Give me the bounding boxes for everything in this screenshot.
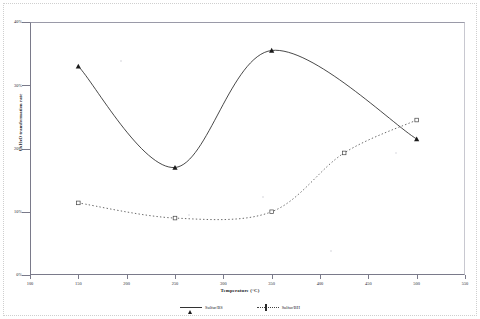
- series-canvas: [30, 22, 465, 275]
- x-tick-label: 550: [450, 281, 480, 286]
- x-tick-label: 300: [208, 281, 238, 286]
- data-point-marker: [77, 201, 81, 205]
- legend-item-1[interactable]: Sulfur/BS: [180, 304, 223, 311]
- x-tick-label: 450: [353, 281, 383, 286]
- x-tick: [368, 275, 369, 279]
- y-tick-label: 0%: [0, 272, 22, 277]
- y-tick: [22, 22, 30, 23]
- y-tick: [22, 85, 30, 86]
- chart-page: 0%10%20%30%40% 1001502002503003504004505…: [0, 0, 480, 319]
- x-tick: [223, 275, 224, 279]
- y-tick: [22, 149, 30, 150]
- data-point-marker: [415, 118, 419, 122]
- x-tick-label: 200: [112, 281, 142, 286]
- legend-line: [257, 307, 279, 308]
- x-tick-label: 500: [402, 281, 432, 286]
- x-tick: [272, 275, 273, 279]
- x-tick-label: 400: [305, 281, 335, 286]
- x-axis-title: Temperature (°C): [0, 288, 480, 293]
- y-axis-title: CxHxO transformation rate: [18, 63, 23, 183]
- data-point-marker: [76, 64, 81, 69]
- legend-label: Sulfur/BH: [282, 305, 300, 310]
- legend-swatch: [257, 304, 279, 311]
- legend-swatch: [180, 304, 202, 311]
- data-point-marker: [342, 151, 346, 155]
- chart-legend: Sulfur/BSSulfur/BH: [0, 304, 480, 311]
- legend-label: Sulfur/BS: [205, 305, 223, 310]
- data-point-marker: [270, 210, 274, 214]
- x-tick-label: 350: [257, 281, 287, 286]
- x-tick-label: 250: [160, 281, 190, 286]
- plot-area: [30, 22, 465, 275]
- x-tick: [320, 275, 321, 279]
- x-tick: [78, 275, 79, 279]
- legend-marker: [265, 305, 267, 310]
- series-1: [76, 48, 420, 170]
- data-point-marker: [173, 216, 177, 220]
- x-tick: [175, 275, 176, 279]
- series-line: [78, 50, 416, 167]
- x-tick-label: 150: [63, 281, 93, 286]
- x-tick: [465, 275, 466, 279]
- x-tick-label: 100: [15, 281, 45, 286]
- x-tick: [127, 275, 128, 279]
- y-tick: [22, 275, 30, 276]
- x-tick: [417, 275, 418, 279]
- y-tick-label: 10%: [0, 209, 22, 214]
- square-marker-icon: [265, 304, 267, 311]
- y-tick: [22, 212, 30, 213]
- data-point-marker: [414, 136, 419, 141]
- x-tick: [30, 275, 31, 279]
- legend-marker: [188, 305, 192, 310]
- triangle-marker-icon: [188, 305, 192, 314]
- legend-item-2[interactable]: Sulfur/BH: [257, 304, 300, 311]
- y-tick-label: 40%: [0, 19, 22, 24]
